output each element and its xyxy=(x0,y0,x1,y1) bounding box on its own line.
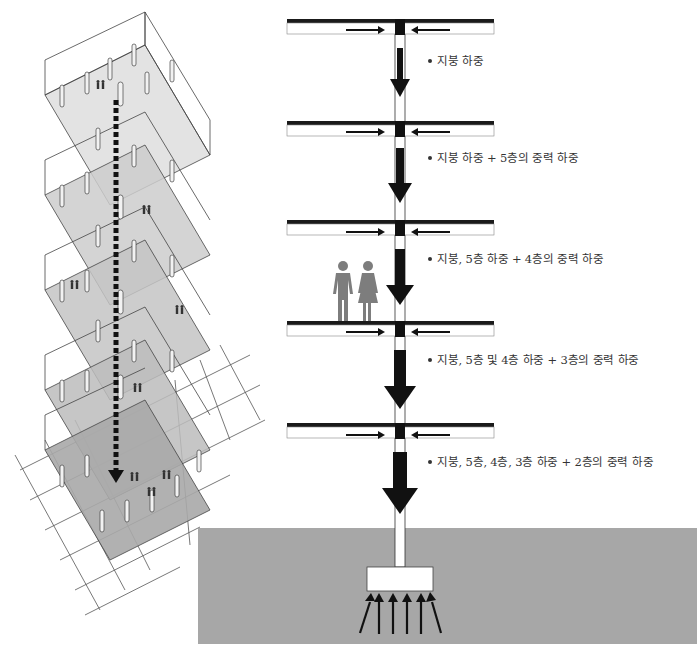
beam-3f xyxy=(287,321,494,337)
load-label-text: 지붕, 5층 및 4층 하중 + 3층의 중력 하중 xyxy=(437,353,639,367)
man-figure-icon xyxy=(333,261,353,321)
beam-5f xyxy=(287,121,494,137)
people-figures xyxy=(333,261,378,321)
diagram-canvas xyxy=(0,0,697,658)
down-arrow-icon-4 xyxy=(384,350,416,409)
down-arrow-icon-2 xyxy=(388,148,412,203)
load-label-roof: 지붕 하중 xyxy=(428,52,484,68)
isometric-building xyxy=(15,12,265,615)
load-label-text: 지붕 하중 + 5층의 중력 하중 xyxy=(437,151,579,165)
load-label-5f: 지붕 하중 + 5층의 중력 하중 xyxy=(428,149,579,165)
beam-roof xyxy=(287,19,494,35)
bullet-icon xyxy=(428,257,432,261)
floor-beams xyxy=(287,19,494,439)
load-label-2f: 지붕, 5층, 4층, 3층 하중 + 2층의 중력 하중 xyxy=(428,453,653,469)
load-label-text: 지붕, 5층 하중 + 4층의 중력 하중 xyxy=(437,252,604,266)
bullet-icon xyxy=(428,156,432,160)
load-label-text: 지붕 하중 xyxy=(437,54,484,68)
down-arrow-icon-5 xyxy=(382,452,418,514)
beam-2f xyxy=(287,423,494,439)
gravity-load-diagram: 지붕 하중 지붕 하중 + 5층의 중력 하중 지붕, 5층 하중 + 4층의 … xyxy=(0,0,697,658)
down-arrow-icon-1 xyxy=(390,48,410,97)
beam-4f xyxy=(287,220,494,236)
ground-soil xyxy=(198,528,697,644)
load-label-3f: 지붕, 5층 및 4층 하중 + 3층의 중력 하중 xyxy=(428,351,639,367)
bullet-icon xyxy=(428,460,432,464)
down-arrow-icon-3 xyxy=(386,249,414,305)
load-label-4f: 지붕, 5층 하중 + 4층의 중력 하중 xyxy=(428,250,604,266)
load-label-text: 지붕, 5층, 4층, 3층 하중 + 2층의 중력 하중 xyxy=(437,455,653,469)
bullet-icon xyxy=(428,358,432,362)
footing xyxy=(367,567,433,591)
bullet-icon xyxy=(428,59,432,63)
woman-figure-icon xyxy=(358,261,378,321)
